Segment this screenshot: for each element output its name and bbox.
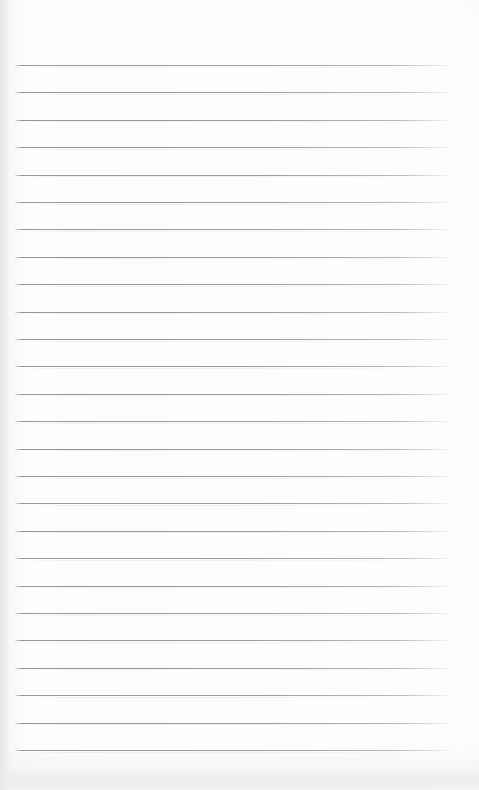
rule-line (15, 202, 453, 203)
rule-line-ghost (15, 478, 453, 479)
notebook-page: Blank lined notebook page (0, 0, 479, 790)
rule-line (15, 750, 453, 751)
rule-line (15, 640, 453, 641)
rule-line (15, 668, 453, 669)
rule-line-ghost (15, 204, 453, 205)
rule-line (15, 120, 453, 121)
rule-line-ghost (15, 67, 453, 68)
rule-line (15, 586, 453, 587)
rule-line (15, 312, 453, 313)
rule-line-ghost (15, 313, 453, 314)
rule-line-ghost (15, 587, 453, 588)
rule-line (15, 503, 453, 504)
rule-line (15, 558, 453, 559)
rule-line (15, 449, 453, 450)
rule-line (15, 723, 453, 724)
rule-line (15, 394, 453, 395)
rule-line (15, 175, 453, 176)
rule-line-ghost (15, 505, 453, 506)
rule-line (15, 695, 453, 696)
rule-line (15, 531, 453, 532)
rule-line-ghost (15, 231, 453, 232)
rule-line (15, 613, 453, 614)
rule-line-ghost (15, 176, 453, 177)
rule-line (15, 366, 453, 367)
rule-line-ghost (15, 752, 453, 753)
rule-line-ghost (15, 450, 453, 451)
rule-line (15, 257, 453, 258)
rule-line (15, 476, 453, 477)
rule-line-ghost (15, 121, 453, 122)
ruled-lines-layer (0, 0, 479, 790)
rule-line-ghost (15, 258, 453, 259)
rule-line-ghost (15, 724, 453, 725)
rule-line-ghost (15, 615, 453, 616)
rule-line-ghost (15, 341, 453, 342)
rule-line-ghost (15, 669, 453, 670)
rule-line-ghost (15, 532, 453, 533)
rule-line (15, 229, 453, 230)
rule-line-ghost (15, 149, 453, 150)
rule-line-ghost (15, 642, 453, 643)
rule-line-ghost (15, 286, 453, 287)
rule-line (15, 65, 453, 66)
rule-line-ghost (15, 94, 453, 95)
rule-line (15, 284, 453, 285)
rule-line-ghost (15, 395, 453, 396)
rule-line-ghost (15, 560, 453, 561)
rule-line (15, 147, 453, 148)
rule-line (15, 421, 453, 422)
rule-line (15, 92, 453, 93)
rule-line-ghost (15, 368, 453, 369)
rule-line-ghost (15, 423, 453, 424)
rule-line-ghost (15, 697, 453, 698)
rule-line (15, 339, 453, 340)
